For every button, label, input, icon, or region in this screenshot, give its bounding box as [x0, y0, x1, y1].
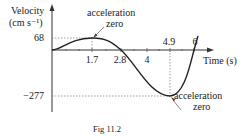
x-tick-1-7: 1.7 [86, 54, 99, 65]
velocity-curve [52, 36, 198, 96]
y-tick-neg277: −277 [23, 90, 44, 101]
figure-caption: Fig 11.2 [93, 124, 121, 134]
x-axis-label: Time (s) [203, 55, 237, 67]
annotation-2-line1: acceleration [174, 90, 222, 101]
velocity-time-chart: Velocity (cm s⁻¹) 68 −277 1.7 2.8 4 4.9 … [0, 0, 246, 137]
y-axis-unit: (cm s⁻¹) [9, 17, 43, 29]
annotation-1-line2: zero [106, 18, 123, 29]
y-tick-68: 68 [34, 32, 44, 43]
x-tick-4: 4 [145, 54, 150, 65]
annotation-arrow-2 [173, 100, 181, 110]
x-tick-2-8: 2.8 [114, 54, 127, 65]
y-axis-arrow-icon [50, 4, 55, 11]
annotation-1-line1: acceleration [87, 7, 135, 18]
x-tick-4-9: 4.9 [163, 36, 176, 47]
annotation-2-line2: zero [193, 101, 210, 112]
x-axis-arrow-icon [207, 48, 214, 53]
x-tick-6: 6 [193, 36, 198, 47]
y-axis-label: Velocity [11, 5, 44, 16]
